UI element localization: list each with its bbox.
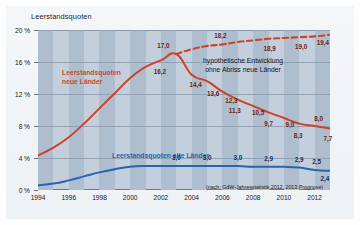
series-label-alte-laender: Leerstandsquoten alte Länder [112,152,209,161]
data-point-label: 12,3 [225,96,237,103]
series-line-alte-laender [38,166,330,185]
y-axis: 0 %4 %8 %12 %16 %20 % [0,30,36,190]
data-point-label: 19,0 [295,43,307,50]
x-axis-tick-label: 2008 [246,194,261,201]
page-title: Leerstandsquoten [31,12,92,21]
data-point-label: 16,2 [154,68,166,75]
data-point-label: 8,0 [314,115,323,122]
data-point-label: 10,5 [252,109,264,116]
y-axis-tick-label: 20 % [15,27,30,34]
chart-figure: Leerstandsquoten 0 %4 %8 %12 %16 %20 % 1… [0,0,360,225]
data-point-label: 3,0 [233,154,242,161]
x-axis: 1994199619982000200220042006200820102012 [38,192,330,210]
data-point-label: 9,0 [286,121,295,128]
source-note: (nach: GdW-Jahresstatistik 2012, 2013 Pr… [206,184,323,190]
annotation-line-2: ohne Abriss neue Länder [203,65,283,74]
y-axis-tick-mark [34,190,38,191]
series-label-neue-line1: Leerstandsquoten [62,69,121,78]
x-axis-tick-label: 1994 [31,194,46,201]
data-point-label: 19,4 [317,38,329,45]
data-point-label: 7,7 [324,135,333,142]
data-point-label: 18,9 [263,44,275,51]
y-axis-tick-label: 16 % [15,59,30,66]
data-point-label: 2,9 [264,154,273,161]
data-point-label: 17,0 [157,42,169,49]
x-axis-tick-label: 2012 [307,194,322,201]
annotation-line-1: hypothetische Entwicklung [203,56,283,65]
data-point-label: 3,0 [172,154,181,161]
data-layer [38,30,330,190]
y-axis-tick-label: 0 % [19,187,30,194]
data-point-label: 13,6 [207,90,219,97]
x-axis-tick-label: 2010 [277,194,292,201]
data-point-label: 2,5 [312,158,321,165]
series-label-neue-laender: Leerstandsquoten neue Länder [62,69,121,87]
x-axis-tick-label: 1998 [92,194,107,201]
data-point-label: 3,0 [203,154,212,161]
x-axis-tick-label: 2000 [123,194,138,201]
data-point-label: 11,3 [229,106,241,113]
data-point-label: 8,3 [294,131,303,138]
x-axis-tick-label: 2006 [215,194,230,201]
annotation-hypothetical: hypothetische Entwicklung ohne Abriss ne… [203,56,283,74]
y-axis-tick-label: 4 % [19,155,30,162]
data-point-label: 18,2 [214,32,226,39]
series-svg [38,30,330,190]
data-point-label: 9,7 [264,120,273,127]
y-axis-tick-label: 8 % [19,123,30,130]
y-axis-tick-label: 12 % [15,91,30,98]
data-point-label: 2,9 [295,155,304,162]
data-point-label: 2,4 [321,174,330,181]
x-axis-tick-label: 2004 [184,194,199,201]
x-axis-tick-label: 1996 [61,194,76,201]
series-label-neue-line2: neue Länder [62,78,121,87]
x-axis-tick-label: 2002 [154,194,169,201]
data-point-label: 14,4 [190,80,202,87]
